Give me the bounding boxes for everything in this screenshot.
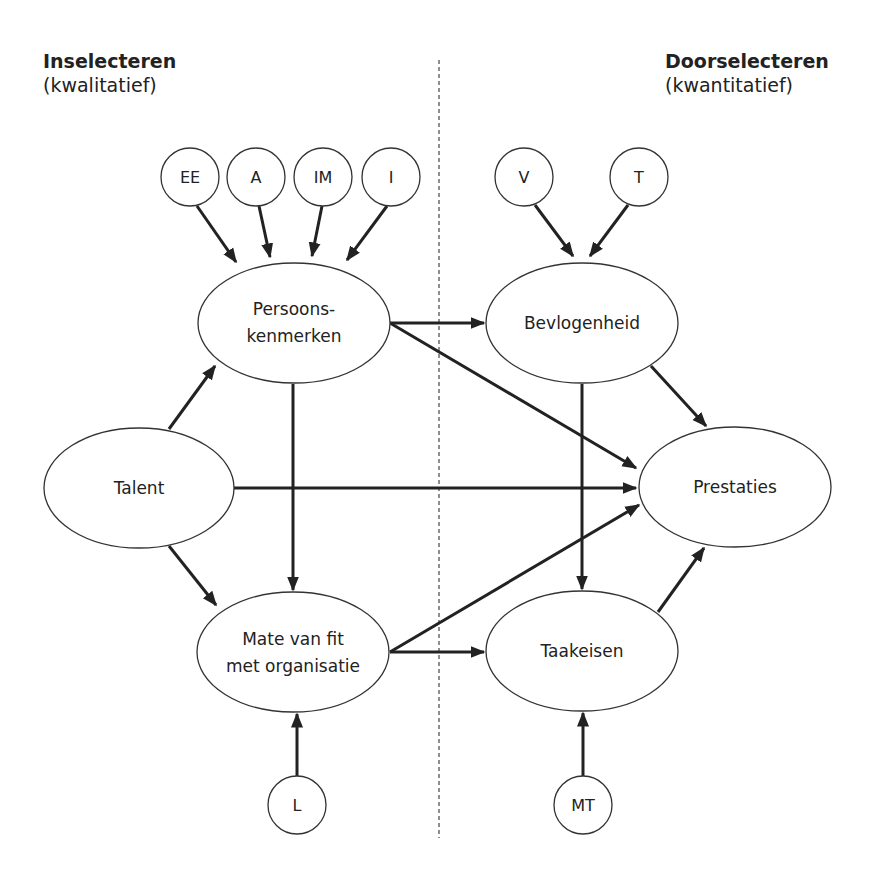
edge-V-bevlogenheid [535,205,573,256]
edge-I-persoonskenmerken [347,206,387,260]
node-V-label: V [519,168,530,187]
diagram-canvas: EE A IM I V T L MT Persoons- kenmerken B… [0,0,875,886]
node-persoonskenmerken-line1: Persoons- [253,299,336,319]
node-T: T [610,148,668,206]
node-bevlogenheid: Bevlogenheid [486,263,678,383]
node-I: I [362,148,420,206]
edge-EE-persoonskenmerken [197,206,236,262]
node-taakeisen-label: Taakeisen [540,641,624,661]
edge-bevlogenheid-prestaties [651,366,706,426]
node-IM: IM [294,148,352,206]
node-V: V [495,148,553,206]
edge-talent-persoonskenmerken [169,366,215,429]
node-EE-label: EE [180,168,200,187]
node-I-label: I [389,168,394,187]
node-L: L [268,776,326,834]
node-prestaties-label: Prestaties [693,477,777,497]
edge-taakeisen-prestaties [658,548,704,612]
node-EE: EE [161,148,219,206]
node-persoonskenmerken-ellipse [198,263,390,383]
node-A: A [227,148,285,206]
node-persoonskenmerken-line2: kenmerken [247,326,342,346]
node-MT-label: MT [571,796,595,815]
edge-talent-matevanfit [169,546,216,605]
edge-T-bevlogenheid [590,205,628,256]
node-L-label: L [293,796,302,815]
node-T-label: T [633,168,644,187]
node-prestaties: Prestaties [639,427,831,547]
node-talent: Talent [44,428,234,548]
node-MT: MT [554,776,612,834]
node-persoonskenmerken: Persoons- kenmerken [198,263,390,383]
node-IM-label: IM [314,168,333,187]
node-mate-van-fit-line2: met organisatie [226,656,360,676]
node-A-label: A [251,168,262,187]
node-mate-van-fit-ellipse [197,592,389,712]
node-mate-van-fit-line1: Mate van fit [242,629,344,649]
node-taakeisen: Taakeisen [486,591,678,711]
edge-IM-persoonskenmerken [312,206,322,256]
edge-A-persoonskenmerken [259,206,270,257]
node-talent-label: Talent [113,478,165,498]
node-mate-van-fit: Mate van fit met organisatie [197,592,389,712]
node-bevlogenheid-label: Bevlogenheid [524,313,640,333]
